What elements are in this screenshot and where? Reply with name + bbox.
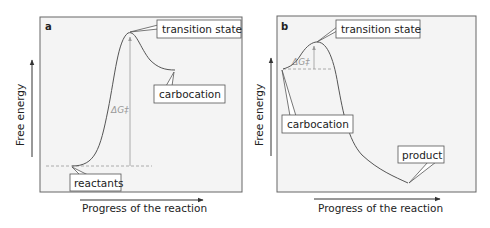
panel-b: b Free energy Progress of the reaction Δ… <box>253 16 476 214</box>
panel-a-delta-g-label: ΔG‡ <box>110 105 129 115</box>
panel-b-x-axis-label: Progress of the reaction <box>318 202 443 214</box>
panel-b-product-label: product <box>402 149 442 161</box>
panel-a-reactant-label: reactants <box>74 177 124 189</box>
panel-b-ts-label: transition state <box>341 23 421 35</box>
panel-a: a Free energy Progress of the reaction Δ… <box>14 17 242 214</box>
panel-b-y-axis-label: Free energy <box>253 84 265 146</box>
panel-a-ts-label: transition state <box>162 23 242 35</box>
panel-a-product-label: carbocation <box>159 88 221 100</box>
energy-diagrams: a Free energy Progress of the reaction Δ… <box>0 0 490 228</box>
panel-b-frame <box>277 16 476 192</box>
panel-b-letter: b <box>281 21 288 32</box>
panel-b-delta-g-label: ΔG‡ <box>291 57 310 67</box>
panel-b-reactant-label: carbocation <box>287 118 349 130</box>
panel-a-y-axis-label: Free energy <box>14 84 26 146</box>
panel-a-x-axis-label: Progress of the reaction <box>82 202 207 214</box>
panel-a-letter: a <box>45 21 52 32</box>
